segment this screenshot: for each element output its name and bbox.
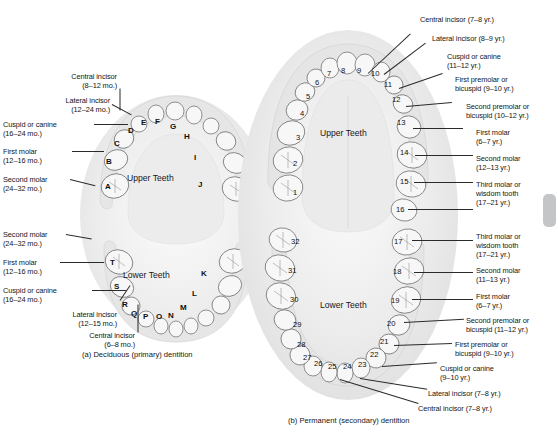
tooth-number-13: 13	[397, 118, 405, 127]
label-deciduous-lower-central-incisor: Central incisor(6–8 mo.)	[28, 331, 135, 349]
tooth-code-P: P	[143, 312, 148, 321]
leader-line	[60, 262, 104, 263]
label-permanent-lower-first-molar: First molar(6–7 yr.)	[476, 292, 510, 310]
tooth-number-10: 10	[371, 69, 379, 78]
tooth-number-21: 21	[380, 337, 388, 346]
tooth-number-12: 12	[392, 95, 400, 104]
tooth-number-14: 14	[400, 148, 408, 157]
panel-a-caption: (a) Deciduous (primary) dentition	[82, 350, 193, 359]
tooth-number-8: 8	[341, 66, 345, 75]
label-permanent-lower-second-premolar: Second premolar orbicuspid (11–12 yr.)	[466, 316, 529, 334]
tooth-code-G: G	[170, 122, 176, 131]
tooth-number-20: 20	[387, 319, 395, 328]
tooth-code-N: N	[168, 311, 174, 320]
leader-line	[414, 182, 473, 183]
label-permanent-lower-second-molar: Second molar(11–13 yr.)	[476, 266, 520, 284]
panel-b-caption: (b) Permanent (secondary) dentition	[288, 416, 410, 425]
tooth-number-3: 3	[296, 133, 300, 142]
tooth-code-M: M	[180, 303, 187, 312]
tooth-code-S: S	[114, 282, 119, 291]
label-deciduous-lower-lateral-incisor: Lateral incisor(12–15 mo.)	[10, 310, 117, 328]
tooth-code-R: R	[122, 300, 128, 309]
tooth-number-7: 7	[327, 69, 331, 78]
tooth-number-9: 9	[357, 66, 361, 75]
tooth-number-5: 5	[306, 92, 310, 101]
tooth-number-24: 24	[343, 362, 351, 371]
leader-line	[414, 272, 473, 273]
tooth-number-27: 27	[303, 353, 311, 362]
leader-line	[415, 155, 473, 156]
tooth-number-6: 6	[315, 78, 319, 87]
label-permanent-lower-third-molar: Third molar orwisdom tooth(17–21 yr.)	[476, 232, 521, 260]
label-deciduous-lower-second-molar: Second molar(24–32 mo.)	[3, 230, 47, 248]
label-permanent-upper-lateral-incisor: Lateral incisor (8–9 yr.)	[432, 34, 505, 43]
label-permanent-upper-third-molar: Third molar orwisdom tooth(17–21 yr.)	[476, 180, 521, 208]
label-permanent-upper-second-premolar: Second premolar orbicuspid (10–12 yr.)	[466, 102, 529, 120]
label-permanent-upper-central-incisor: Central incisor (7–8 yr.)	[420, 15, 494, 24]
label-deciduous-upper-lateral-incisor: Lateral incisor(12–24 mo.)	[3, 96, 110, 114]
permanent-lower-arch-name: Lower Teeth	[320, 300, 367, 310]
tooth-number-4: 4	[300, 109, 304, 118]
label-deciduous-upper-first-molar: First molar(12–16 mo.)	[3, 147, 42, 165]
tooth-code-O: O	[156, 312, 162, 321]
tooth-code-A: A	[105, 182, 111, 191]
tooth-number-19: 19	[391, 296, 399, 305]
tooth-number-29: 29	[293, 320, 301, 329]
leader-line	[412, 240, 473, 241]
tooth-number-22: 22	[370, 350, 378, 359]
tooth-code-D: D	[128, 126, 134, 135]
tooth-number-30: 30	[290, 295, 298, 304]
tooth-number-28: 28	[297, 340, 305, 349]
tooth-number-31: 31	[288, 266, 296, 275]
deciduous-upper-arch-name: Upper Teeth	[127, 173, 174, 183]
leader-line	[138, 305, 139, 333]
label-deciduous-upper-central-incisor: Central incisor(8–12 mo.)	[10, 72, 117, 90]
tooth-number-26: 26	[314, 359, 322, 368]
permanent-upper-arch-name: Upper Teeth	[320, 128, 367, 138]
label-permanent-lower-lateral-incisor: Lateral incisor (7–8 yr.)	[428, 389, 501, 398]
tooth-number-11: 11	[384, 80, 392, 89]
label-deciduous-lower-cuspid: Cuspid or canine(16–24 mo.)	[3, 286, 57, 304]
tooth-number-25: 25	[328, 362, 336, 371]
label-permanent-lower-central-incisor: Central incisor (7–8 yr.)	[418, 404, 492, 413]
leader-line	[412, 299, 473, 300]
leader-line	[94, 124, 128, 125]
tooth-code-I: I	[194, 153, 196, 162]
tooth-number-2: 2	[293, 159, 297, 168]
tooth-code-E: E	[141, 118, 146, 127]
leader-line	[408, 209, 473, 210]
leader-line	[92, 290, 126, 291]
tooth-code-Q: Q	[131, 309, 137, 318]
tooth-number-15: 15	[400, 177, 408, 186]
tooth-code-K: K	[201, 269, 207, 278]
figure-canvas: Upper Teeth Lower Teeth Central incisor(…	[0, 0, 558, 432]
tooth-code-C: C	[114, 139, 120, 148]
tooth-code-J: J	[198, 180, 202, 189]
label-permanent-upper-cuspid: Cuspid or canine(11–12 yr.)	[447, 52, 501, 70]
scrollbar-thumb[interactable]	[543, 194, 556, 227]
label-deciduous-upper-cuspid: Cuspid or canine(16–24 mo.)	[3, 120, 57, 138]
tooth-code-B: B	[106, 157, 112, 166]
leader-line	[413, 128, 463, 129]
label-permanent-upper-first-premolar: First premolar orbicuspid (9–10 yr.)	[455, 75, 514, 93]
tooth-number-23: 23	[358, 360, 366, 369]
tooth-number-16: 16	[396, 205, 404, 214]
label-deciduous-lower-first-molar: First molar(12–16 mo.)	[3, 258, 42, 276]
label-permanent-lower-first-premolar: First premolar orbicuspid (9–10 yr.)	[455, 340, 514, 358]
tooth-number-1: 1	[293, 188, 297, 197]
label-permanent-lower-cuspid: Cuspid or canine(9–10 yr.)	[440, 364, 494, 382]
leader-line	[72, 151, 104, 152]
tooth-code-H: H	[184, 132, 190, 141]
tooth-code-F: F	[155, 117, 160, 126]
tooth-code-T: T	[110, 258, 115, 267]
label-permanent-upper-first-molar: First molar(6–7 yr.)	[476, 128, 510, 146]
label-deciduous-upper-second-molar: Second molar(24–32 mo.)	[3, 175, 47, 193]
tooth-code-L: L	[192, 289, 197, 298]
tooth-number-18: 18	[393, 267, 401, 276]
tooth-number-17: 17	[394, 237, 402, 246]
label-permanent-upper-second-molar: Second molar(12–13 yr.)	[476, 154, 520, 172]
deciduous-lower-arch-name: Lower Teeth	[123, 270, 170, 280]
tooth-number-32: 32	[291, 237, 299, 246]
